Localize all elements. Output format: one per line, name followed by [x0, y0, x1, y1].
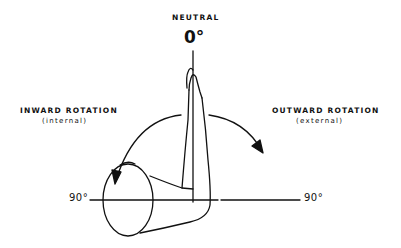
left-rotation-arrow-icon — [112, 115, 181, 184]
right-rotation-arrow-icon — [209, 115, 263, 153]
arm-figure-icon — [103, 68, 210, 236]
rotation-diagram — [0, 0, 401, 248]
